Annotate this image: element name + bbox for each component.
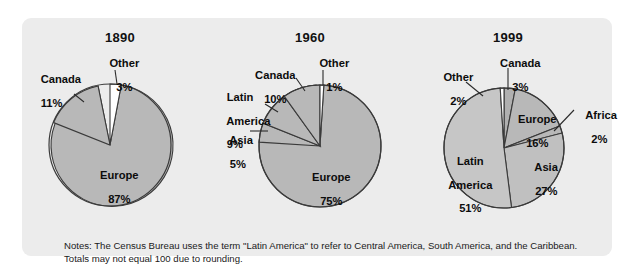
pie-label-asia-1999: Asia 27% — [514, 150, 560, 209]
pie-label-africa-1999: Africa 2% — [567, 98, 613, 157]
pie-label-other-1999: Other 2% — [422, 60, 476, 119]
pie-label-canada-1999: Canada 3% — [478, 46, 544, 105]
pie-panel-1999: 1999 Canada 3% Other 2% — [404, 18, 612, 230]
notes-line-1: Notes: The Census Bureau uses the term "… — [64, 240, 624, 253]
figure-card: 1890 Other 3% Canada 11% Europe 87% 19 — [22, 18, 612, 256]
pie-label-europe-1890: Europe 87% — [74, 158, 146, 217]
pie-panel-1890: 1890 Other 3% Canada 11% Europe 87% — [22, 18, 218, 230]
pie-label-europe-1960: Europe 75% — [286, 160, 358, 219]
pie-label-other-1960: Other 1% — [292, 46, 358, 105]
pie-label-latin-america-1999: Latin America 51% — [430, 144, 492, 227]
pie-label-other-1890: Other 3% — [78, 46, 152, 105]
pie-panel-1960: 1960 Other 1% Canada 10% — [208, 18, 412, 230]
notes-line-2: Totals may not equal 100 due to rounding… — [64, 253, 624, 265]
pie-label-asia-1960: Asia 5% — [211, 123, 251, 182]
figure-notes: Notes: The Census Bureau uses the term "… — [64, 240, 624, 265]
pie-label-canada-1890: Canada 11% — [22, 62, 80, 121]
